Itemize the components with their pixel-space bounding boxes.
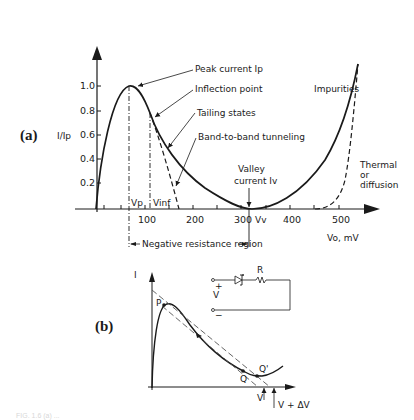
x-tick-label: 100 bbox=[138, 214, 156, 225]
x-tick-label: 200 bbox=[186, 214, 204, 225]
vv-label: Vv bbox=[255, 215, 267, 225]
panel-b: (b) I P Q Q' V V + ΔV bbox=[95, 265, 311, 410]
y-tick-label: 0.8 bbox=[80, 105, 95, 116]
inflection-annotation: Inflection point bbox=[195, 84, 263, 94]
figure-caption: FIG. 1.6 (a) ... bbox=[16, 412, 60, 420]
vp-label: Vp bbox=[131, 198, 143, 208]
b-y-axis-label: I bbox=[134, 270, 137, 280]
inflection-pointer bbox=[155, 90, 193, 117]
peak-annotation: Peak current Ip bbox=[195, 64, 263, 74]
valley-annotation-line1: Valley bbox=[238, 164, 266, 174]
x-axis-arrow-icon bbox=[364, 204, 380, 214]
panel-a: (a) 1.0 0.8 0.6 0.4 0.2 I/Ip bbox=[20, 46, 399, 249]
point-q-label: Q bbox=[240, 374, 247, 384]
x-tick-label: 400 bbox=[283, 214, 301, 225]
panel-b-label: (b) bbox=[95, 318, 113, 335]
y-tick-label: 0.6 bbox=[80, 129, 95, 140]
thermal-annotation-line2: or bbox=[360, 170, 370, 180]
v-marker-label: V bbox=[257, 393, 264, 403]
resistor-icon bbox=[256, 277, 266, 283]
peak-pointer bbox=[138, 70, 193, 86]
point-p bbox=[162, 303, 166, 307]
iv-curve-band-to-band bbox=[150, 113, 179, 209]
figure-canvas: (a) 1.0 0.8 0.6 0.4 0.2 I/Ip bbox=[0, 0, 414, 420]
tailing-annotation: Tailing states bbox=[196, 108, 256, 118]
y-tick-label: 0.2 bbox=[80, 177, 95, 188]
valley-annotation-line2: current Iv bbox=[234, 176, 278, 186]
circuit-inset: R V + − bbox=[212, 265, 291, 320]
neg-res-left-arrow-icon bbox=[130, 242, 136, 246]
thermal-annotation-line1: Thermal bbox=[359, 160, 397, 170]
resistor-label: R bbox=[257, 265, 263, 275]
b-y-axis-arrow-icon bbox=[149, 272, 155, 282]
tunnel-diode-icon bbox=[235, 276, 242, 284]
point-q-prime bbox=[255, 374, 259, 378]
b-x-axis-arrow-icon bbox=[285, 384, 296, 390]
y-tick-label: 0.4 bbox=[80, 153, 95, 164]
v-dv-marker-label: V + ΔV bbox=[278, 400, 311, 410]
source-label: V bbox=[213, 290, 220, 300]
y-axis-label: I/Ip bbox=[57, 131, 71, 141]
thermal-annotation-line3: diffusion bbox=[360, 180, 399, 190]
point-q bbox=[241, 369, 245, 373]
impurities-annotation: Impurities bbox=[314, 84, 360, 94]
tailing-pointer bbox=[168, 113, 195, 148]
point-q-prime-label: Q' bbox=[259, 364, 269, 374]
plus-label: + bbox=[215, 281, 223, 291]
load-line-upper bbox=[152, 290, 270, 387]
y-axis-arrow-icon bbox=[92, 46, 102, 60]
minus-label: − bbox=[215, 310, 223, 320]
panel-a-label: (a) bbox=[20, 127, 38, 144]
vinf-label: Vinf bbox=[153, 198, 171, 208]
x-tick-label: 500 bbox=[332, 214, 350, 225]
point-p-label: P bbox=[156, 298, 162, 308]
band-annotation: Band-to-band tunneling bbox=[198, 132, 305, 142]
y-tick-label: 1.0 bbox=[80, 80, 95, 91]
x-axis-label: Vo, mV bbox=[327, 233, 359, 243]
